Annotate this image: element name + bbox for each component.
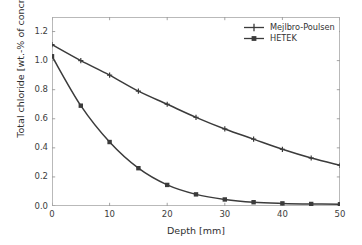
chart-figure: 0.00.20.40.60.81.01.2 01020304050 Depth … xyxy=(0,0,362,245)
x-axis-tick-label: 50 xyxy=(335,210,346,219)
x-axis-tick-label: 30 xyxy=(219,210,230,219)
series-mejlbro-poulsen xyxy=(52,42,340,168)
x-axis-tick-label: 10 xyxy=(104,210,115,219)
y-axis-title-wrap: Total chloride [wt.-% of concrete] xyxy=(15,0,29,159)
legend-item-mejlbro-poulsen: Mejlbro-Poulsen xyxy=(243,22,335,33)
y-axis-tick-label: 0.2 xyxy=(22,172,48,181)
legend-marker-plus-icon xyxy=(243,22,265,33)
series-hetek xyxy=(52,54,340,206)
legend-item-hetek: HETEK xyxy=(243,33,335,44)
x-axis-tick-labels: 01020304050 xyxy=(0,210,362,222)
x-axis-title: Depth [mm] xyxy=(52,225,340,236)
chart-legend: Mejlbro-Poulsen HETEK xyxy=(240,20,339,46)
y-axis-title: Total chloride [wt.-% of concrete] xyxy=(15,0,26,159)
x-axis-tick-label: 40 xyxy=(277,210,288,219)
x-axis-tick-label: 20 xyxy=(162,210,173,219)
legend-label: HETEK xyxy=(270,33,297,44)
legend-label: Mejlbro-Poulsen xyxy=(270,22,335,33)
legend-marker-square-icon xyxy=(243,33,265,44)
x-axis-tick-label: 0 xyxy=(49,210,54,219)
